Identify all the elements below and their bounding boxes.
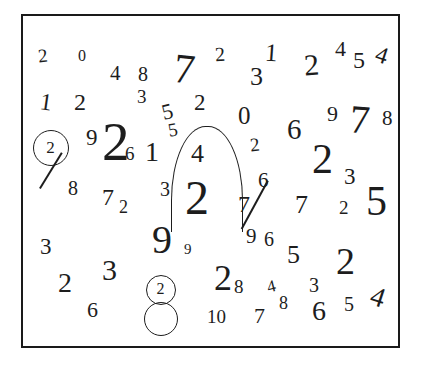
digit-glyph: 1 [264, 40, 278, 66]
digit-glyph: 10 [207, 307, 226, 326]
digit-glyph: 7 [295, 192, 308, 218]
digit-glyph: 5 [344, 294, 354, 314]
digit-glyph: 3 [344, 165, 356, 188]
digit-glyph: 3 [309, 275, 319, 295]
digit-glyph: 2 [339, 198, 349, 217]
digit-glyph: 6 [312, 297, 326, 325]
digit-glyph: 2 [37, 46, 48, 66]
empty-circle-marker [144, 302, 178, 336]
digit-glyph: 9 [246, 226, 257, 247]
digit-glyph: 2 [214, 44, 225, 65]
digit-glyph: 5 [166, 119, 179, 139]
digit-glyph: 3 [40, 235, 52, 258]
digit-glyph: 9 [184, 242, 192, 257]
digit-glyph: 8 [382, 108, 393, 129]
digit-glyph: 4 [265, 277, 277, 296]
digit-glyph: 7 [254, 305, 265, 327]
digit-glyph: 8 [138, 64, 148, 84]
digit-glyph: 2 [58, 269, 72, 297]
digit-glyph: 3 [160, 179, 170, 199]
digit-glyph: 0 [78, 48, 86, 64]
digit-glyph: 2 [312, 138, 333, 180]
digit-glyph: 2 [214, 260, 232, 296]
digit-glyph: 6 [125, 144, 135, 163]
digit-glyph: 9 [327, 103, 338, 125]
digit-glyph: 2 [194, 91, 206, 114]
digit-glyph: 8 [279, 294, 288, 312]
digit-glyph: 6 [264, 229, 274, 249]
digit-glyph: 9 [86, 126, 98, 149]
digit-glyph: 8 [234, 277, 244, 296]
digit-glyph: 2 [74, 90, 86, 114]
digit-glyph: 2 [336, 242, 355, 280]
digit-glyph: 4 [373, 42, 392, 69]
digit-glyph: 1 [38, 89, 53, 114]
circled-target-label: 2 [157, 281, 165, 297]
digit-glyph: 4 [335, 38, 346, 60]
digit-glyph: 7 [172, 47, 197, 91]
digit-glyph: 8 [68, 178, 78, 198]
digit-glyph: 5 [366, 180, 387, 222]
digit-glyph: 4 [110, 63, 121, 84]
digit-glyph: 2 [119, 198, 128, 216]
digit-glyph: 1 [145, 138, 159, 166]
image-frame: 2048721324541235206978592614223872326772… [21, 14, 400, 348]
digit-glyph: 3 [137, 87, 147, 106]
digit-glyph: 5 [353, 48, 365, 72]
digit-scatter-canvas: 2048721324541235206978592614223872326772… [0, 0, 422, 365]
digit-glyph: 6 [287, 115, 302, 144]
circled-target-label: 2 [46, 139, 55, 156]
digit-glyph: 6 [87, 299, 98, 321]
digit-glyph: 5 [287, 242, 300, 268]
digit-glyph: 2 [249, 135, 260, 155]
digit-glyph: 0 [238, 103, 251, 128]
digit-glyph: 7 [102, 185, 114, 209]
digit-glyph: 7 [349, 99, 372, 140]
digit-glyph: 3 [250, 64, 263, 90]
digit-glyph: 2 [303, 50, 320, 81]
large-arch-curve [171, 126, 243, 232]
digit-glyph: 3 [102, 255, 117, 285]
digit-glyph: 4 [367, 282, 389, 313]
digit-glyph: 9 [152, 220, 172, 260]
